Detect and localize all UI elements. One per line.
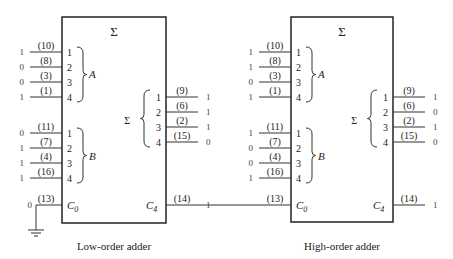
a-operand-label: A [88,68,96,80]
b-pin-number: (4) [269,151,281,163]
carry-out-subscript: 4 [380,205,384,214]
sum-output-value: 1 [433,122,438,132]
a-pin-label: 3 [67,77,72,88]
a-input-value: 1 [20,92,25,102]
b-pin-label: 2 [296,143,301,154]
carry-in-pin-number: (13) [38,193,55,205]
carry-in-subscript: 0 [74,205,78,214]
a-pin-number: (10) [267,40,284,52]
sum-pin-number: (15) [401,130,418,142]
sum-pin-number: (2) [403,115,415,127]
b-pin-label: 1 [67,128,72,139]
b-pin-number: (7) [40,136,52,148]
a-input-value: 0 [20,77,25,87]
a-operand-label: A [317,68,325,80]
adder-caption: High-order adder [304,240,380,252]
sum-pin-label: 1 [383,92,388,103]
b-pin-number: (16) [38,166,55,178]
sum-pin-label: 2 [156,107,161,118]
b-input-value: 1 [20,143,25,153]
a-input-value: 1 [249,92,254,102]
sum-pin-number: (15) [174,130,191,142]
b-pin-number: (4) [40,151,52,163]
b-pin-number: (16) [267,166,284,178]
b-input-value: 1 [20,158,25,168]
sum-pin-number: (6) [403,100,415,112]
low-order-adder: Σ1(10)10(8)20(3)31(1)4A0(11)11(7)21(4)31… [20,17,212,252]
a-pin-label: 4 [296,92,301,103]
a-pin-label: 2 [67,62,72,73]
sum-output-value: 1 [433,92,438,102]
carry-out-pin-number: (14) [401,193,418,205]
sum-pin-label: 4 [156,137,161,148]
a-pin-label: 1 [296,47,301,58]
a-input-value: 1 [20,47,25,57]
b-pin-label: 3 [67,158,72,169]
adder-sum-symbol: Σ [338,24,346,39]
adder-box [62,17,166,223]
carry-in-subscript: 0 [303,205,307,214]
high-order-adder: Σ1(10)11(8)20(3)31(1)4A1(11)10(7)20(4)31… [249,17,439,252]
sum-pin-label: 3 [383,122,388,133]
a-pin-number: (3) [40,70,52,82]
a-pin-label: 4 [67,92,72,103]
sum-output-value: 0 [433,107,438,117]
carry-out-pin-number: (14) [174,193,191,205]
b-operand-label: B [89,150,96,162]
carry-out-subscript: 4 [153,205,157,214]
a-pin-label: 2 [296,62,301,73]
sum-output-label: Σ [351,115,357,126]
b-pin-label: 4 [67,173,72,184]
a-pin-number: (1) [40,85,52,97]
sum-pin-number: (9) [176,85,188,97]
carry-out-value: 1 [206,200,211,210]
b-pin-number: (11) [267,121,283,133]
a-input-value: 1 [249,47,254,57]
sum-pin-label: 3 [156,122,161,133]
sum-output-value: 1 [206,122,211,132]
b-input-value: 1 [20,173,25,183]
b-pin-label: 4 [296,173,301,184]
a-input-value: 0 [20,62,25,72]
sum-output-value: 0 [206,137,211,147]
b-pin-number: (11) [38,121,54,133]
carry-in-pin-number: (13) [267,193,284,205]
b-pin-label: 3 [296,158,301,169]
a-pin-number: (8) [40,55,52,67]
a-pin-number: (10) [38,40,55,52]
b-input-value: 1 [249,128,254,138]
sum-output-value: 0 [433,137,438,147]
a-pin-number: (1) [269,85,281,97]
carry-in-value: 0 [28,200,33,210]
sum-pin-number: (9) [403,85,415,97]
sum-pin-label: 2 [383,107,388,118]
b-pin-number: (7) [269,136,281,148]
a-pin-number: (3) [269,70,281,82]
a-pin-label: 1 [67,47,72,58]
b-pin-label: 2 [67,143,72,154]
carry-in-ground-wire [36,205,62,230]
a-pin-label: 3 [296,77,301,88]
carry-out-value: 1 [433,200,438,210]
adder-caption: Low-order adder [77,240,152,252]
adder-sum-symbol: Σ [110,24,118,39]
a-pin-number: (8) [269,55,281,67]
sum-pin-label: 1 [156,92,161,103]
sum-output-value: 1 [206,92,211,102]
b-operand-label: B [318,150,325,162]
b-pin-label: 1 [296,128,301,139]
adder-box [291,17,393,222]
sum-output-value: 1 [206,107,211,117]
sum-pin-label: 4 [383,137,388,148]
sum-pin-number: (2) [176,115,188,127]
b-input-value: 1 [249,173,254,183]
b-input-value: 0 [20,128,25,138]
sum-output-label: Σ [124,115,130,126]
a-input-value: 1 [249,62,254,72]
b-input-value: 0 [249,143,254,153]
b-input-value: 0 [249,158,254,168]
cascaded-adder-diagram: Σ1(10)10(8)20(3)31(1)4A0(11)11(7)21(4)31… [0,0,453,259]
sum-pin-number: (6) [176,100,188,112]
a-input-value: 0 [249,77,254,87]
